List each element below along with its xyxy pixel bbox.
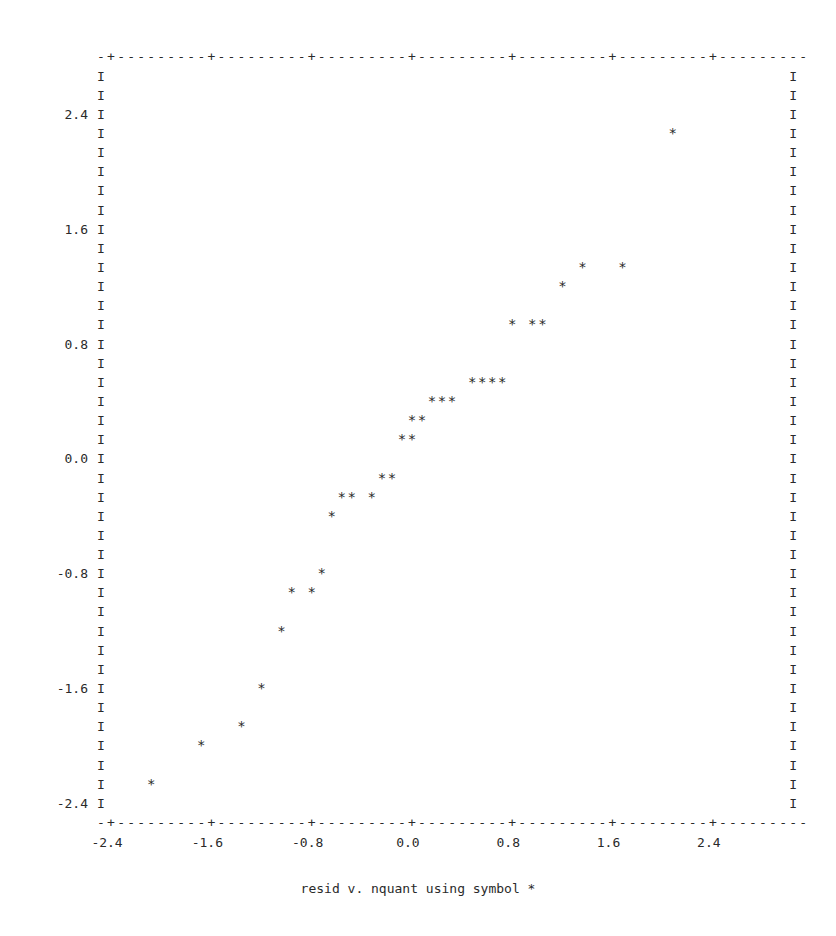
left-axis-bar: I	[96, 258, 106, 277]
border-dash: -	[517, 813, 527, 832]
right-axis-bar: I	[788, 335, 798, 354]
border-dash: -	[297, 47, 307, 66]
right-axis-bar: I	[788, 679, 798, 698]
right-axis-bar: I	[788, 162, 798, 181]
border-dash: -	[567, 813, 577, 832]
border-dash: -	[718, 813, 728, 832]
border-dash: -	[748, 813, 758, 832]
right-axis-bar: I	[788, 449, 798, 468]
border-dash: -	[287, 47, 297, 66]
right-axis-bar: I	[788, 315, 798, 334]
data-point-star: *	[487, 373, 497, 392]
chart-caption: resid v. nquant using symbol *	[0, 880, 836, 898]
right-axis-bar: I	[788, 507, 798, 526]
border-dash: -	[477, 813, 487, 832]
right-axis-bar: I	[788, 488, 798, 507]
border-dash: -	[337, 47, 347, 66]
border-dash: -	[417, 47, 427, 66]
left-axis-bar: I	[96, 354, 106, 373]
border-dash: -	[678, 47, 688, 66]
data-point-star: *	[417, 411, 427, 430]
border-dash: -	[778, 47, 788, 66]
border-dash: -	[297, 813, 307, 832]
right-axis-bar: I	[788, 698, 798, 717]
left-axis-bar: I	[96, 411, 106, 430]
left-axis-bar: I	[96, 641, 106, 660]
border-dash: -	[678, 813, 688, 832]
border-dash: -	[216, 813, 226, 832]
tick-mark: +	[206, 813, 216, 832]
right-axis-bar: I	[788, 296, 798, 315]
border-dash: -	[427, 813, 437, 832]
border-dash: -	[116, 47, 126, 66]
data-point-star: *	[668, 124, 678, 143]
border-dash: -	[738, 47, 748, 66]
border-dash: -	[567, 47, 577, 66]
right-axis-bar: I	[788, 641, 798, 660]
left-axis-bar: I	[96, 717, 106, 736]
right-axis-bar: I	[788, 717, 798, 736]
data-point-star: *	[437, 392, 447, 411]
border-dash: -	[357, 813, 367, 832]
border-dash: -	[648, 47, 658, 66]
border-dash: -	[267, 47, 277, 66]
right-axis-bar: I	[788, 86, 798, 105]
border-dash: -	[638, 47, 648, 66]
left-axis-bar: I	[96, 602, 106, 621]
border-dash: -	[236, 47, 246, 66]
border-dash: -	[327, 813, 337, 832]
border-dash: -	[718, 47, 728, 66]
qq-plot: -+---------+---------+---------+--------…	[0, 0, 836, 936]
data-point-star: *	[196, 736, 206, 755]
y-tick-label: 2.4	[28, 105, 88, 124]
border-dash: -	[768, 47, 778, 66]
border-dash: -	[367, 813, 377, 832]
right-axis-bar: I	[788, 756, 798, 775]
border-dash: -	[477, 47, 487, 66]
border-dash: -	[347, 47, 357, 66]
left-axis-bar: I	[96, 526, 106, 545]
tick-mark: +	[206, 47, 216, 66]
border-dash: -	[728, 813, 738, 832]
border-dash: -	[547, 813, 557, 832]
left-axis-bar: I	[96, 698, 106, 717]
data-point-star: *	[337, 488, 347, 507]
left-axis-bar: I	[96, 488, 106, 507]
border-dash: -	[527, 47, 537, 66]
border-dash: -	[537, 47, 547, 66]
border-dash: -	[618, 813, 628, 832]
x-tick-label: 0.0	[378, 833, 438, 852]
y-tick-label: -2.4	[28, 794, 88, 813]
left-axis-bar: I	[96, 775, 106, 794]
border-dash: -	[287, 813, 297, 832]
right-axis-bar: I	[788, 67, 798, 86]
left-axis-bar: I	[96, 430, 106, 449]
border-dash: -	[447, 813, 457, 832]
border-dash: -	[196, 813, 206, 832]
data-point-star: *	[618, 258, 628, 277]
border-dash: -	[668, 47, 678, 66]
border-dash: -	[698, 47, 708, 66]
left-axis-bar: I	[96, 583, 106, 602]
data-point-star: *	[537, 315, 547, 334]
data-point-star: *	[467, 373, 477, 392]
left-axis-bar: I	[96, 545, 106, 564]
right-axis-bar: I	[788, 373, 798, 392]
border-dash: -	[186, 47, 196, 66]
data-point-star: *	[277, 622, 287, 641]
border-dash: -	[557, 813, 567, 832]
left-axis-bar: I	[96, 335, 106, 354]
left-axis-bar: I	[96, 794, 106, 813]
left-axis-bar: I	[96, 373, 106, 392]
data-point-star: *	[507, 315, 517, 334]
right-axis-bar: I	[788, 105, 798, 124]
y-tick-label: -1.6	[28, 679, 88, 698]
right-axis-bar: I	[788, 392, 798, 411]
border-dash: -	[377, 47, 387, 66]
right-axis-bar: I	[788, 430, 798, 449]
right-axis-bar: I	[788, 220, 798, 239]
border-dash: -	[226, 813, 236, 832]
data-point-star: *	[397, 430, 407, 449]
right-axis-bar: I	[788, 469, 798, 488]
right-axis-bar: I	[788, 201, 798, 220]
